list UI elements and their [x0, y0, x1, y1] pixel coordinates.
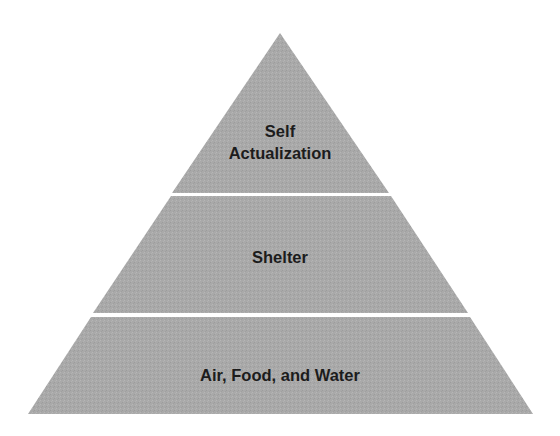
level-top-label-line1: Self: [265, 122, 296, 140]
pyramid-level-top: [172, 33, 389, 193]
pyramid-diagram: Self Actualization Shelter Air, Food, an…: [0, 0, 560, 436]
level-bottom-label: Air, Food, and Water: [200, 366, 360, 384]
level-middle-label: Shelter: [252, 248, 309, 266]
level-top-label-line2: Actualization: [229, 144, 332, 162]
